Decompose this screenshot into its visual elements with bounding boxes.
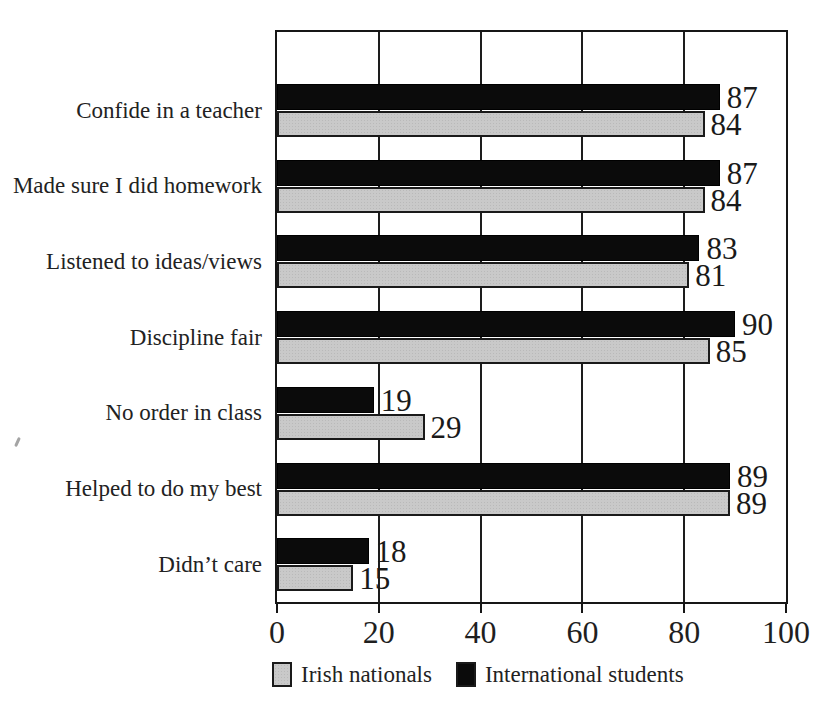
bar-irish: 81 xyxy=(277,262,689,288)
axis-tick xyxy=(581,604,583,613)
bar-pair: 9085 xyxy=(277,311,786,364)
category-label: No order in class xyxy=(106,401,263,425)
bar-irish: 84 xyxy=(277,111,705,137)
bar-pair: 1815 xyxy=(277,538,786,591)
legend-swatch-irish-nationals xyxy=(272,662,292,687)
value-label: 29 xyxy=(431,411,462,442)
bar-international: 87 xyxy=(277,84,720,110)
bar-international: 18 xyxy=(277,538,369,564)
bar-irish: 85 xyxy=(277,338,710,364)
value-label: 19 xyxy=(381,384,412,415)
plot-area: 8784878483819085192989891815 xyxy=(275,30,788,604)
value-label: 81 xyxy=(695,260,726,291)
bar-international: 87 xyxy=(277,160,720,186)
scan-speck-artifact xyxy=(14,437,21,447)
value-label: 90 xyxy=(742,309,773,340)
axis-tick xyxy=(276,604,278,613)
value-label: 15 xyxy=(359,563,390,594)
axis-tick-label: 20 xyxy=(363,616,395,648)
legend-item-international-students: International students xyxy=(456,662,684,687)
legend: Irish nationals International students xyxy=(272,662,684,687)
bar-irish: 89 xyxy=(277,490,730,516)
value-label: 89 xyxy=(736,487,767,518)
value-label: 85 xyxy=(716,336,747,367)
legend-label-irish-nationals: Irish nationals xyxy=(301,663,432,686)
axis-tick-label: 100 xyxy=(762,616,810,648)
axis-tick xyxy=(378,604,380,613)
legend-label-international-students: International students xyxy=(485,663,684,686)
category-label: Listened to ideas/views xyxy=(46,250,262,274)
legend-item-irish-nationals: Irish nationals xyxy=(272,662,432,687)
category-label: Made sure I did homework xyxy=(13,174,262,198)
bar-international: 90 xyxy=(277,311,735,337)
axis-tick xyxy=(785,604,787,613)
bar-irish: 84 xyxy=(277,187,705,213)
bar-pair: 1929 xyxy=(277,387,786,440)
category-label: Discipline fair xyxy=(130,326,262,350)
axis-tick-label: 60 xyxy=(566,616,598,648)
axis-tick xyxy=(480,604,482,613)
category-label: Helped to do my best xyxy=(65,477,262,501)
value-label: 84 xyxy=(711,109,742,140)
legend-swatch-international-students xyxy=(456,662,476,687)
bar-irish: 29 xyxy=(277,414,425,440)
bar-pair: 8989 xyxy=(277,463,786,516)
bar-international: 19 xyxy=(277,387,374,413)
value-label: 84 xyxy=(711,184,742,215)
bar-irish: 15 xyxy=(277,565,353,591)
category-label: Confide in a teacher xyxy=(76,98,262,122)
axis-tick-label: 80 xyxy=(668,616,700,648)
bar-pair: 8784 xyxy=(277,160,786,213)
axis-tick-label: 0 xyxy=(269,616,285,648)
bar-pair: 8784 xyxy=(277,84,786,137)
bar-international: 89 xyxy=(277,463,730,489)
bar-pair: 8381 xyxy=(277,235,786,288)
category-label: Didn’t care xyxy=(158,553,262,577)
axis-tick-label: 40 xyxy=(465,616,497,648)
axis-tick xyxy=(683,604,685,613)
bar-international: 83 xyxy=(277,235,699,261)
